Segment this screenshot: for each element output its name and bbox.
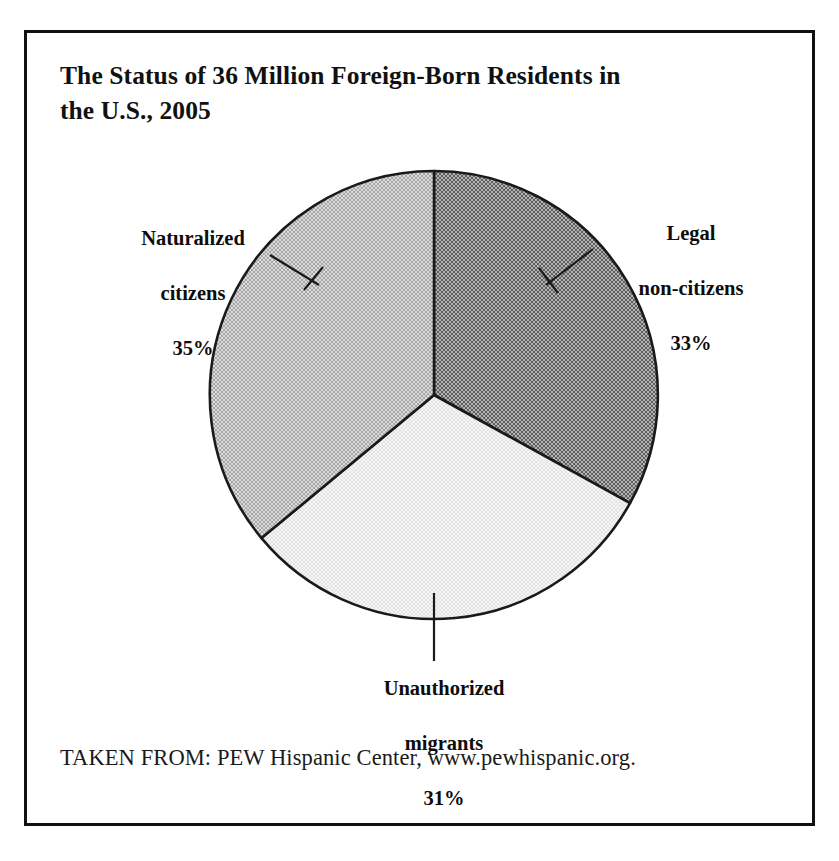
pie-label-legal-line1: Legal	[587, 220, 795, 247]
pie-label-legal-percent: 33%	[587, 330, 795, 357]
pie-label-naturalized-line2: citizens	[89, 280, 297, 307]
figure-frame: The Status of 36 Million Foreign-Born Re…	[24, 30, 815, 826]
pie-label-unauthorized-line1: Unauthorized	[340, 675, 548, 702]
pie-label-naturalized-citizens: Naturalized citizens 35%	[89, 198, 297, 390]
pie-label-legal-non-citizens: Legal non-citizens 33%	[587, 193, 795, 385]
pie-label-naturalized-percent: 35%	[89, 335, 297, 362]
pie-label-legal-line2: non-citizens	[587, 275, 795, 302]
pie-label-unauthorized-percent: 31%	[340, 785, 548, 812]
pie-label-naturalized-line1: Naturalized	[89, 225, 297, 252]
figure-root: The Status of 36 Million Foreign-Born Re…	[0, 0, 839, 861]
source-note: TAKEN FROM: PEW Hispanic Center, www.pew…	[60, 745, 780, 771]
